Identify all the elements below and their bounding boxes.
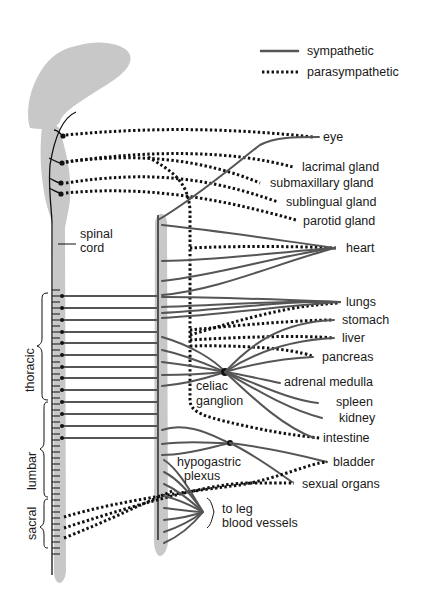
organ-label-intestine: intestine: [323, 431, 370, 445]
brain-shape: [28, 42, 130, 129]
organ-label-lungs: lungs: [346, 295, 376, 309]
preganglionic-neuron: [60, 353, 64, 357]
sacral-brace: [40, 499, 48, 548]
preganglionic-neuron: [60, 412, 64, 416]
preganglionic-sympathetic-fibers: [60, 294, 158, 440]
organ-label-heart: heart: [346, 241, 375, 255]
preganglionic-neuron: [60, 376, 64, 380]
organ-label-sexual: sexual organs: [302, 477, 380, 491]
organ-label-pancreas: pancreas: [322, 350, 373, 364]
thoracic-label: thoracic: [23, 348, 37, 392]
autonomic-nervous-system-diagram: sympathetic parasympathetic: [0, 0, 422, 589]
leg-brace: [207, 498, 214, 528]
fiber-to-lacrimal: [66, 154, 293, 167]
organ-label-submaxillary: submaxillary gland: [270, 176, 374, 190]
legend-parasympathetic-label: parasympathetic: [307, 65, 399, 79]
thoracic-brace: [37, 293, 48, 400]
legend: sympathetic parasympathetic: [261, 44, 399, 79]
preganglionic-neuron: [60, 388, 64, 392]
hypogastric-plexus-label: hypogastric plexus: [177, 455, 244, 483]
fiber-to-eye: [66, 130, 313, 137]
preganglionic-neuron: [60, 318, 64, 322]
organ-label-bladder: bladder: [333, 455, 375, 469]
preganglionic-neuron: [60, 424, 64, 428]
preganglionic-neuron: [60, 294, 64, 298]
sacral-label: sacral: [25, 507, 39, 540]
preganglionic-neuron: [60, 365, 64, 369]
organ-label-lacrimal: lacrimal gland: [302, 160, 379, 174]
preganglionic-neuron: [60, 436, 64, 440]
spinal-cord-label: spinal cord: [80, 227, 116, 255]
organ-label-kidney: kidney: [339, 411, 376, 425]
hypogastric-inputs: [162, 427, 230, 455]
organ-label-adrenal: adrenal medulla: [284, 375, 373, 389]
legend-sympathetic-label: sympathetic: [307, 44, 374, 58]
organ-label-parotid: parotid gland: [303, 214, 375, 228]
organ-label-spleen: spleen: [336, 395, 373, 409]
leg-blood-vessels-label: to leg blood vessels: [222, 502, 298, 530]
lumbar-brace: [40, 402, 48, 497]
organ-label-sublingual: sublingual gland: [286, 195, 376, 209]
fiber-to-sublingual: [66, 177, 278, 202]
preganglionic-neuron: [60, 330, 64, 334]
preganglionic-neuron: [60, 341, 64, 345]
preganglionic-neuron: [60, 306, 64, 310]
organ-label-liver: liver: [342, 331, 365, 345]
preganglionic-neuron: [60, 400, 64, 404]
lumbar-label: lumbar: [25, 452, 39, 490]
organ-label-stomach: stomach: [342, 313, 389, 327]
organ-label-eye: eye: [323, 130, 343, 144]
